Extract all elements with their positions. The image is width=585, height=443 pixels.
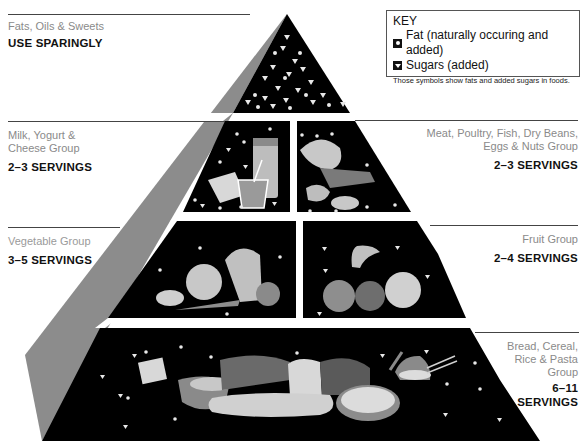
group-name: Vegetable Group [8,235,92,248]
servings: 2–4 SERVINGS [494,251,578,265]
label-fats: Fats, Oils & Sweets USE SPARINGLY [8,20,104,50]
rule-milk [8,121,225,122]
label-fruit: Fruit Group 2–4 SERVINGS [494,233,578,265]
label-meat: Meat, Poultry, Fish, Dry Beans, Eggs & N… [427,127,578,172]
key-item-label: Sugars (added) [406,58,489,73]
key-item-label: Fat (naturally occuring and added) [406,28,573,58]
key-item-sugar: Sugars (added) [393,58,573,73]
group-name: Group [507,366,578,379]
rule-fats [8,14,250,15]
label-bread: Bread, Cereal, Rice & Pasta Group 6–11 S… [507,340,578,409]
servings: USE SPARINGLY [8,36,104,50]
sugar-triangle-icon [393,61,402,70]
key-item-fat: Fat (naturally occuring and added) [393,28,573,58]
servings: 2–3 SERVINGS [427,158,578,172]
rule-bread [475,332,579,333]
servings: 2–3 SERVINGS [8,160,92,174]
group-name: Cheese Group [8,142,92,155]
legend-key: KEY Fat (naturally occuring and added) S… [386,10,580,77]
rule-fruit [430,225,578,226]
group-name: Fats, Oils & Sweets [8,20,104,33]
label-vegetable: Vegetable Group 3–5 SERVINGS [8,235,92,267]
servings: 3–5 SERVINGS [8,253,92,267]
label-milk: Milk, Yogurt & Cheese Group 2–3 SERVINGS [8,129,92,174]
fat-circle-icon [393,39,402,48]
key-note: Those symbols show fats and added sugars… [393,76,573,85]
group-name: Meat, Poultry, Fish, Dry Beans, [427,127,578,140]
rule-vegetable [8,227,120,228]
servings: 6–11 [507,381,578,395]
rule-meat [355,120,578,121]
group-name: Fruit Group [494,233,578,246]
group-name: Eggs & Nuts Group [427,140,578,153]
servings: SERVINGS [507,395,578,409]
group-name: Milk, Yogurt & [8,129,92,142]
group-name: Rice & Pasta [507,353,578,366]
key-title: KEY [393,14,573,28]
group-name: Bread, Cereal, [507,340,578,353]
